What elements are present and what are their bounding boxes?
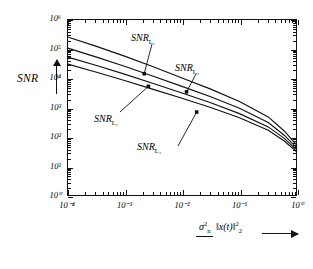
y-axis-minor-tick [68,139,71,140]
y-axis-minor-tick [293,88,296,89]
y-axis-tick [291,50,296,51]
x-axis-minor-tick [120,192,121,195]
y-tick-label: 10⁵ [31,44,61,53]
y-axis-tick [68,138,73,139]
curve-label-snr-l2: SNRL₂ [175,62,199,75]
y-axis-minor-tick [293,145,296,146]
y-axis-tick [68,168,73,169]
x-axis-minor-tick [218,192,219,195]
y-axis-minor-tick [293,174,296,175]
x-axis-tick [241,190,242,195]
y-axis-minor-tick [68,58,71,59]
x-axis-minor-tick [166,20,167,23]
x-axis-title: σ2n ‖x(t)‖22 [196,220,242,237]
x-axis-arrow-icon [262,233,298,234]
y-axis-minor-tick [68,120,71,121]
x-axis-minor-tick [235,192,236,195]
y-axis-tick [68,79,73,80]
y-axis-minor-tick [293,58,296,59]
y-tick-label: 10⁰ [31,191,61,200]
x-axis-denominator: ‖x(t)‖22 [216,220,242,235]
x-axis-minor-tick [228,20,229,23]
y-axis-tick [68,197,73,198]
y-axis-tick [291,109,296,110]
x-axis-minor-tick [103,20,104,23]
x-axis-minor-tick [108,192,109,195]
x-axis-minor-tick [268,20,269,23]
y-axis-minor-tick [68,111,71,112]
y-axis-minor-tick [293,41,296,42]
x-axis-minor-tick [123,20,124,23]
y-axis-minor-tick [68,141,71,142]
y-axis-tick [291,138,296,139]
y-axis-minor-tick [68,80,71,81]
y-axis-minor-tick [293,141,296,142]
x-axis-minor-tick [232,192,233,195]
x-axis-minor-tick [218,20,219,23]
x-axis-minor-tick [170,20,171,23]
x-tick-label: 10⁻² [165,201,199,210]
y-axis-minor-tick [68,32,71,33]
x-axis-minor-tick [238,192,239,195]
x-axis-minor-tick [285,192,286,195]
y-axis-minor-tick [293,91,296,92]
x-axis-minor-tick [85,192,86,195]
x-axis-minor-tick [153,20,154,23]
y-axis-minor-tick [68,29,71,30]
x-axis-minor-tick [160,20,161,23]
y-tick-label: 10² [31,132,61,141]
chart-figure: SNR 10⁰10¹10²10³10⁴10⁵10⁶ 10⁻⁴10⁻³10⁻²10… [0,0,313,269]
x-tick-label: 10⁰ [280,201,313,210]
x-axis-minor-tick [289,192,290,195]
x-axis-minor-tick [170,192,171,195]
x-axis-minor-tick [295,20,296,23]
x-axis-minor-tick [166,192,167,195]
y-axis-minor-tick [68,170,71,171]
x-axis-minor-tick [177,20,178,23]
y-axis-minor-tick [68,91,71,92]
x-axis-minor-tick [117,20,118,23]
y-axis-tick [68,50,73,51]
y-axis-minor-tick [68,172,71,173]
x-axis-numerator: σ2n [196,221,213,237]
x-axis-minor-tick [177,192,178,195]
y-axis-minor-tick [68,82,71,83]
x-axis-minor-tick [285,20,286,23]
y-axis-minor-tick [68,110,71,111]
y-axis-minor-tick [293,129,296,130]
x-axis-minor-tick [85,20,86,23]
y-axis-minor-tick [293,82,296,83]
x-axis-minor-tick [223,20,224,23]
y-axis-minor-tick [68,88,71,89]
y-axis-minor-tick [293,54,296,55]
y-axis-minor-tick [293,100,296,101]
curve-label-snr-l4: SNRL₄ [137,141,161,154]
x-axis-tick [298,20,299,25]
y-axis-minor-tick [293,183,296,184]
x-axis-minor-tick [113,192,114,195]
y-axis-minor-tick [68,176,71,177]
y-axis-minor-tick [68,56,71,57]
y-axis-minor-tick [293,84,296,85]
y-axis-minor-tick [68,153,71,154]
x-axis-minor-tick [210,20,211,23]
x-axis-minor-tick [235,20,236,23]
x-axis-minor-tick [228,192,229,195]
y-axis-minor-tick [68,113,71,114]
x-axis-minor-tick [117,192,118,195]
y-axis-minor-tick [293,176,296,177]
y-axis-minor-tick [293,188,296,189]
y-axis-minor-tick [293,61,296,62]
y-axis-minor-tick [68,143,71,144]
y-axis-minor-tick [68,61,71,62]
y-axis-minor-tick [68,54,71,55]
x-axis-minor-tick [200,192,201,195]
y-tick-label: 10³ [31,103,61,112]
y-axis-minor-tick [293,124,296,125]
y-axis-minor-tick [293,70,296,71]
x-axis-minor-tick [180,192,181,195]
x-axis-minor-tick [95,192,96,195]
y-axis-minor-tick [293,172,296,173]
x-tick-label: 10⁻¹ [223,201,257,210]
x-axis-tick [241,20,242,25]
